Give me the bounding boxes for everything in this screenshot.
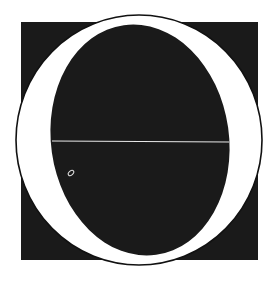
initial-letter-o-ornament	[0, 0, 275, 283]
